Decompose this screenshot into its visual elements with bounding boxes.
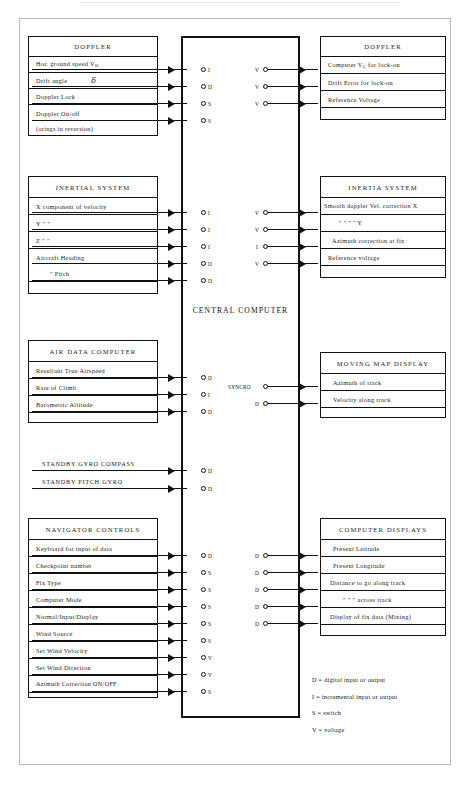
row-label: Reference Voltage [328, 96, 380, 103]
row-label: Set Wind Velocity [36, 647, 88, 654]
unit-title: AIR DATA COMPUTER [29, 341, 157, 362]
arrow-head [168, 552, 175, 560]
signal-row: Doppler On/off [29, 105, 157, 121]
port-circle [201, 67, 206, 72]
signal-letter: D [208, 262, 212, 267]
row-label: Y " " [36, 220, 50, 227]
signal-letter: D [255, 571, 259, 576]
row-label: Set Wind Direction [36, 664, 91, 671]
row-label: Computer VC for lock-on [328, 61, 400, 69]
signal-row: Reference Voltage [321, 91, 445, 108]
signal-letter: V [208, 673, 212, 678]
legend-item-switch: S = switch [312, 709, 462, 716]
port-circle [201, 672, 206, 677]
arrow-head [168, 408, 175, 416]
arrow-head [168, 66, 175, 74]
signal-letter: V [255, 262, 259, 267]
row-label: Present Longitude [333, 562, 385, 569]
arrow-head [299, 383, 306, 391]
row-label: Fix Type [36, 579, 61, 586]
arrow-head [168, 243, 175, 251]
unit-title: DOPPLER [321, 37, 445, 57]
arrow-head [299, 586, 306, 594]
row-label: Z " " [36, 237, 50, 244]
signal-letter: I [208, 393, 210, 398]
arrow-head [299, 83, 306, 91]
port-circle [201, 468, 206, 473]
connector-wire [268, 69, 318, 70]
connector-wire [32, 120, 187, 121]
row-label: Azimuth Correction ON/OFF [36, 681, 117, 687]
row-label: Display of fix data (Mixing) [330, 613, 411, 620]
arrow-head [299, 603, 306, 611]
arrow-head [168, 637, 175, 645]
signal-letter: D [255, 605, 259, 610]
connector-wire [32, 377, 187, 378]
signal-row: Velocity along track [321, 391, 445, 408]
signal-row: (orings in reversion) [29, 121, 157, 137]
connector-wire [32, 488, 187, 489]
connector-wire [268, 229, 318, 230]
unit-title: INERTIA SYSTEM [321, 177, 445, 198]
row-label: Reference voltage [328, 254, 380, 261]
standby-pitch-gyro-label: STANDBY PITCH GYRO [42, 478, 123, 485]
connector-wire [32, 246, 187, 247]
connector-wire [268, 86, 318, 87]
signal-letter: V [255, 102, 259, 107]
arrow-head [168, 226, 175, 234]
standby-gyro-compass-label: STANDBY GYRO COMPASS [42, 460, 135, 467]
port-circle [201, 227, 206, 232]
port-circle [201, 587, 206, 592]
unit-doppler-output: DOPPLER Computer VC for lock-on Drift Er… [320, 36, 446, 120]
row-label: (orings in reversion) [36, 126, 93, 132]
port-circle [201, 638, 206, 643]
signal-letter: D [255, 554, 259, 559]
connector-wire [32, 470, 187, 471]
row-label: Present Latitude [333, 545, 380, 552]
signal-row: Azimuth correction at fix [321, 232, 445, 249]
legend-item-incremental: I = incremental input or output [312, 693, 462, 700]
row-label: Rate of Climb [36, 384, 76, 391]
unit-inertial-system: INERTIAL SYSTEM X component of velocity … [28, 176, 158, 294]
port-circle [201, 570, 206, 575]
connector-wire [32, 674, 187, 675]
arrow-head [168, 569, 175, 577]
arrow-head [168, 277, 175, 285]
legend-item-digital: D = digital input or output [312, 676, 462, 683]
signal-letter: V [255, 228, 259, 233]
signal-letter: D [208, 279, 212, 284]
central-computer-box [181, 36, 300, 718]
signal-row [29, 413, 157, 424]
arrow-head [168, 620, 175, 628]
scan-artifact-line [80, 2, 400, 3]
drift-angle-symbol: δ [91, 76, 96, 85]
row-label: " " " " Y [339, 220, 362, 226]
connector-wire [32, 229, 187, 230]
signal-row: Drift Error for lock-on [321, 74, 445, 91]
unit-title: MOVING MAP DISPLAY [321, 353, 445, 374]
port-circle [201, 689, 206, 694]
connector-wire [32, 606, 187, 607]
connector-wire [32, 691, 187, 692]
row-label: Doppler Lock [36, 93, 75, 100]
signal-letter: S [208, 690, 211, 695]
row-label: Barometric Altitude [36, 401, 93, 408]
signal-row [29, 693, 157, 699]
signal-letter: I [256, 245, 258, 250]
connector-wire [268, 555, 318, 556]
unit-title: COMPUTER DISPLAYS [321, 519, 445, 540]
signal-letter: D [255, 622, 259, 627]
row-label: Azimuth of track [333, 379, 382, 386]
signal-row: " " " across track [321, 591, 445, 608]
arrow-head [299, 209, 306, 217]
port-circle [201, 210, 206, 215]
arrow-head [299, 66, 306, 74]
signal-letter: I [208, 228, 210, 233]
connector-wire [268, 386, 318, 387]
arrow-head [168, 391, 175, 399]
connector-wire [268, 103, 318, 104]
port-circle [201, 278, 206, 283]
port-circle [201, 118, 206, 123]
unit-computer-displays: COMPUTER DISPLAYS Present Latitude Prese… [320, 518, 446, 636]
port-circle [201, 244, 206, 249]
